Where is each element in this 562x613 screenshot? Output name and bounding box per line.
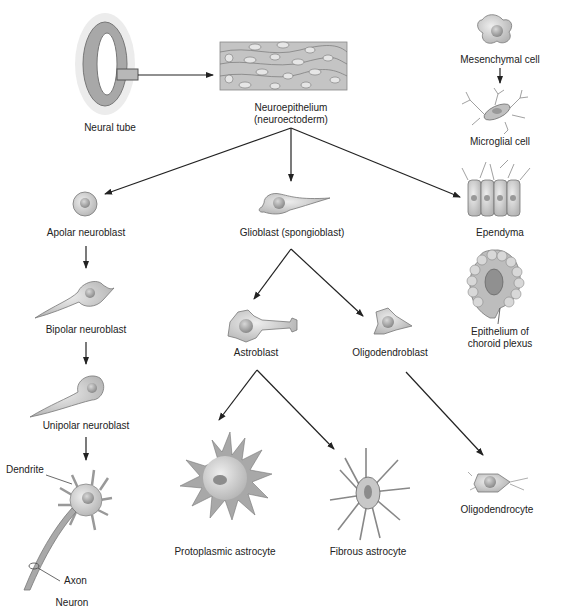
neuroepithelium-illustration bbox=[220, 42, 347, 90]
astroblast-illustration bbox=[228, 310, 297, 342]
microglial-cell-illustration bbox=[462, 88, 528, 134]
protoplasmic-astrocyte-illustration bbox=[180, 432, 272, 520]
label-bipolar-neuroblast: Bipolar neuroblast bbox=[28, 324, 144, 336]
label-unipolar-neuroblast: Unipolar neuroblast bbox=[28, 420, 144, 432]
arrow-to-oligodendrocyte bbox=[406, 372, 483, 455]
label-neuroepithelium: Neuroepithelium bbox=[236, 102, 346, 114]
label-astroblast: Astroblast bbox=[226, 347, 286, 359]
label-oligodendrocyte: Oligodendrocyte bbox=[452, 504, 542, 516]
label-fibrous-astrocyte: Fibrous astrocyte bbox=[318, 546, 418, 558]
label-glioblast: Glioblast (spongioblast) bbox=[230, 227, 354, 239]
label-oligodendroblast: Oligodendroblast bbox=[345, 347, 435, 359]
mesenchymal-cell-illustration bbox=[478, 15, 512, 44]
label-microglial-cell: Microglial cell bbox=[450, 136, 550, 148]
label-dendrite: Dendrite bbox=[6, 464, 50, 476]
arrow-to-apolar bbox=[105, 128, 291, 194]
neural-tube-illustration bbox=[75, 13, 138, 115]
bipolar-neuroblast-illustration bbox=[35, 281, 114, 318]
fibrous-astrocyte-illustration bbox=[330, 448, 410, 540]
label-neuroectoderm: (neuroectoderm) bbox=[236, 114, 346, 126]
arrow-to-protoplasmic bbox=[219, 370, 257, 420]
oligodendrocyte-illustration bbox=[468, 472, 528, 492]
ependyma-illustration bbox=[462, 160, 530, 216]
label-protoplasmic-astrocyte: Protoplasmic astrocyte bbox=[160, 546, 290, 558]
oligodendroblast-illustration bbox=[374, 308, 412, 334]
label-ependyma: Ependyma bbox=[470, 227, 530, 239]
label-apolar-neuroblast: Apolar neuroblast bbox=[28, 227, 144, 239]
apolar-neuroblast-illustration bbox=[73, 192, 97, 216]
label-choroid-plexus: choroid plexus bbox=[455, 338, 545, 350]
diagram-canvas bbox=[0, 0, 562, 613]
label-epithelium-of: Epithelium of bbox=[455, 326, 545, 338]
arrow-to-fibrous bbox=[257, 370, 334, 449]
glioblast-illustration bbox=[259, 193, 330, 214]
label-axon: Axon bbox=[64, 575, 94, 587]
label-neural-tube: Neural tube bbox=[80, 122, 140, 134]
choroid-plexus-illustration bbox=[467, 250, 524, 324]
label-neuron: Neuron bbox=[50, 597, 94, 609]
unipolar-neuroblast-illustration bbox=[30, 376, 104, 417]
neuron-illustration bbox=[24, 470, 112, 590]
arrow-to-ependyma bbox=[291, 128, 460, 197]
arrow-to-astroblast bbox=[254, 249, 291, 299]
arrow-to-oligodendroblast bbox=[291, 249, 363, 316]
label-mesenchymal-cell: Mesenchymal cell bbox=[450, 54, 550, 66]
